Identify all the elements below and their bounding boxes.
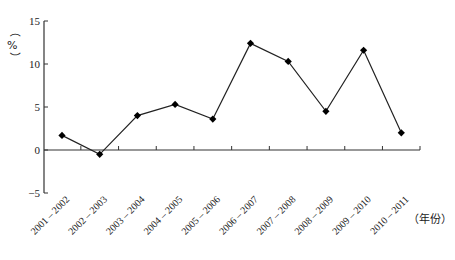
diamond-marker bbox=[360, 47, 367, 54]
x-tick-label: 2008 – 2009 bbox=[292, 194, 335, 237]
x-tick-labels: 2001 – 20022002 – 20032003 – 20042004 – … bbox=[28, 194, 410, 237]
x-tick-label: 2005 – 2006 bbox=[179, 194, 222, 237]
y-unit-label: （ % ） bbox=[7, 26, 21, 63]
y-unit-close: ） bbox=[8, 52, 21, 63]
y-tick-label: −5 bbox=[28, 187, 40, 199]
x-tick-label: 2007 – 2008 bbox=[254, 194, 297, 237]
x-unit-label: （年份） bbox=[408, 212, 452, 226]
y-tick-label: 5 bbox=[35, 101, 41, 113]
y-unit-symbol: % bbox=[7, 39, 17, 52]
x-tick-label: 2004 – 2005 bbox=[141, 194, 184, 237]
x-tick-label: 2002 – 2003 bbox=[66, 194, 109, 237]
x-tick-label: 2010 – 2011 bbox=[368, 194, 411, 237]
x-tick-label: 2009 – 2010 bbox=[330, 194, 373, 237]
x-tick-label: 2001 – 2002 bbox=[28, 194, 71, 237]
y-tick-label: 15 bbox=[29, 15, 41, 27]
x-tick-label: 2003 – 2004 bbox=[104, 194, 147, 237]
diamond-marker bbox=[172, 101, 179, 108]
y-unit-open: （ bbox=[8, 26, 21, 37]
line-chart: −5051015 2001 – 20022002 – 20032003 – 20… bbox=[0, 0, 455, 260]
diamond-marker bbox=[58, 132, 65, 139]
diamond-marker bbox=[209, 115, 216, 122]
x-axis bbox=[44, 146, 420, 150]
data-markers bbox=[58, 40, 405, 158]
diamond-marker bbox=[247, 40, 254, 47]
series-line bbox=[62, 43, 401, 154]
x-tick-label: 2006 – 2007 bbox=[217, 194, 260, 237]
y-tick-label: 10 bbox=[29, 58, 41, 70]
y-axis: −5051015 bbox=[28, 15, 48, 199]
diamond-marker bbox=[398, 129, 405, 136]
y-tick-label: 0 bbox=[35, 144, 41, 156]
